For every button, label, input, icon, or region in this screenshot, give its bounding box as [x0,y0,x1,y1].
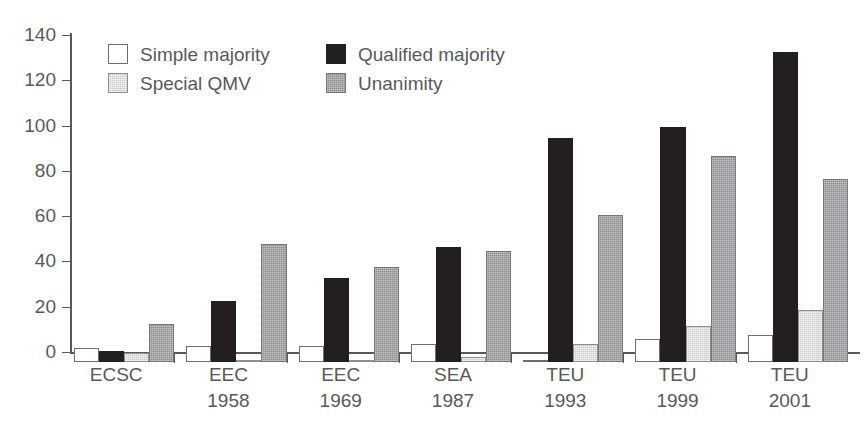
x-axis-label-year: 1958 [172,388,284,414]
x-axis-label: ECSC [60,362,172,388]
bar-simple [186,346,211,362]
bar-unanimity [261,244,286,362]
x-axis-label-name: SEA [434,364,472,385]
x-axis-label-year: 1987 [397,388,509,414]
bar-simple [74,348,99,362]
bar-chart: 020406080100120140 ECSCEEC1958EEC1969SEA… [0,0,865,425]
bar-qualified [211,301,236,362]
bar-simple [635,339,660,362]
bar-special [686,326,711,362]
chart-legend: Simple majorityQualified majoritySpecial… [108,44,505,93]
bar-qualified [99,351,124,362]
legend-swatch-icon [108,73,128,93]
x-axis-label: SEA1987 [397,362,509,414]
bar-unanimity [149,324,174,362]
bar-group [633,30,745,357]
bar-simple [748,335,773,362]
x-axis-label: TEU2001 [734,362,846,414]
bar-qualified [773,52,798,362]
x-axis-label-name: EEC [321,364,360,385]
bar-unanimity [711,156,736,362]
bar-special [573,344,598,362]
y-tick-label: 60 [2,206,56,225]
legend-label: Qualified majority [358,45,505,64]
bar-group [746,30,858,357]
bar-qualified [436,247,461,362]
x-axis-label: EEC1958 [172,362,284,414]
bar-group [521,30,633,357]
x-axis-label-year: 1999 [621,388,733,414]
x-axis-label: TEU1993 [509,362,621,414]
x-axis-label-year: 2001 [734,388,846,414]
bar-unanimity [823,179,848,362]
x-axis-label: EEC1969 [285,362,397,414]
x-axis-label-year: 1993 [509,388,621,414]
bar-special [124,353,149,362]
bar-unanimity [486,251,511,362]
legend-swatch-icon [326,73,346,93]
y-tick-label: 80 [2,161,56,180]
legend-item[interactable]: Qualified majority [326,44,505,64]
y-tick-label: 0 [2,342,56,361]
x-axis-label-name: TEU [659,364,697,385]
bar-qualified [548,138,573,362]
y-tick-label: 140 [2,25,56,44]
legend-swatch-icon [108,44,128,64]
bar-qualified [324,278,349,362]
y-tick-label: 20 [2,297,56,316]
x-axis-label-name: EEC [209,364,248,385]
legend-label: Simple majority [140,45,270,64]
legend-item[interactable]: Special QMV [108,73,326,93]
y-tick-label: 100 [2,116,56,135]
x-axis-label-name: TEU [771,364,809,385]
y-tick-label: 120 [2,70,56,89]
bar-simple [411,344,436,362]
x-axis-label-name: TEU [546,364,584,385]
y-tick-label: 40 [2,251,56,270]
legend-item[interactable]: Simple majority [108,44,326,64]
bar-qualified [660,127,685,362]
x-axis-label: TEU1999 [621,362,733,414]
legend-label: Special QMV [140,74,251,93]
x-axis-label-name: ECSC [90,364,143,385]
legend-item[interactable]: Unanimity [326,73,505,93]
legend-label: Unanimity [358,74,442,93]
legend-swatch-icon [326,44,346,64]
x-axis-label-year: 1969 [285,388,397,414]
bar-special [798,310,823,362]
bar-unanimity [598,215,623,362]
bar-simple [299,346,324,362]
bar-unanimity [374,267,399,362]
